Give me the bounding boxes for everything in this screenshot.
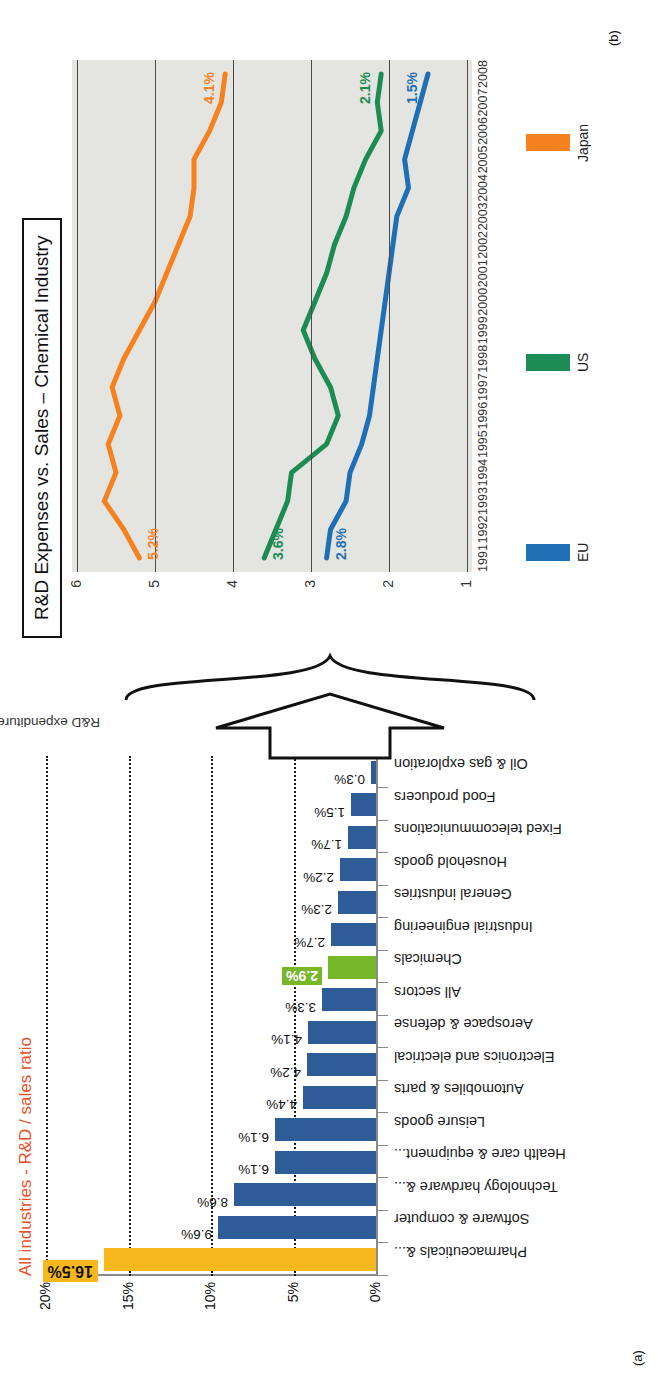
category-label-text: Food producers bbox=[394, 789, 496, 805]
x-tick bbox=[376, 1048, 388, 1049]
legend-label: Japan bbox=[575, 124, 591, 162]
legend-item-us: US bbox=[526, 353, 591, 372]
x-tick bbox=[376, 788, 388, 789]
curly-brace-icon bbox=[120, 652, 540, 706]
gridline bbox=[233, 60, 234, 572]
category-label-text: All sectors bbox=[394, 984, 461, 1000]
gridline bbox=[155, 60, 156, 572]
legend-item-japan: Japan bbox=[526, 124, 591, 162]
category-label: General industries bbox=[392, 886, 662, 919]
gridline bbox=[389, 60, 390, 572]
bar-value-label: 2.7% bbox=[295, 935, 326, 950]
category-label: Fixed telecommunications bbox=[392, 821, 662, 854]
category-label-text: Leisure goods bbox=[394, 1114, 485, 1130]
series-end-label: 2.1% bbox=[357, 72, 373, 104]
line-x-tick-labels: 1991199219931994199519961997199819992000… bbox=[476, 60, 494, 572]
bar-rect bbox=[234, 1183, 376, 1206]
series-end-label: 4.1% bbox=[201, 72, 217, 104]
bar-item: 3.3% bbox=[46, 984, 376, 1017]
category-label-text: Electronics and electrical bbox=[394, 1049, 554, 1065]
series-end-label: 1.5% bbox=[404, 72, 420, 104]
bar-value-label: 1.7% bbox=[311, 837, 342, 852]
bar-value-label: 3.3% bbox=[285, 1000, 316, 1015]
panel-a-tag: (a) bbox=[630, 1350, 645, 1366]
x-tick-label: 2003 bbox=[476, 202, 490, 230]
series-end-label: 3.6% bbox=[270, 528, 286, 560]
y-tick-label: 2 bbox=[380, 580, 396, 598]
legend-label: EU bbox=[575, 543, 591, 562]
bar-category-labels: Pharmaceuticals &...Software & computerT… bbox=[392, 756, 662, 1276]
category-label: Health care & equipment... bbox=[392, 1146, 662, 1179]
bar-x-ticks bbox=[376, 756, 388, 1276]
series-end-label: 2.8% bbox=[333, 528, 349, 560]
gridline bbox=[311, 60, 312, 572]
category-label: Leisure goods bbox=[392, 1114, 662, 1147]
legend-swatch bbox=[526, 354, 570, 371]
category-label-text: Automobiles & parts bbox=[394, 1081, 524, 1097]
x-tick bbox=[376, 820, 388, 821]
bar-rect bbox=[275, 1118, 376, 1141]
bar-rect bbox=[348, 826, 376, 849]
bar-item: 4.2% bbox=[46, 1049, 376, 1082]
bar-item: 2.9% bbox=[46, 951, 376, 984]
bar-rect bbox=[307, 1053, 376, 1076]
bar-rect bbox=[218, 1216, 376, 1239]
rotated-figure-canvas: (a) All industries - R&D / sales ratio 0… bbox=[0, 0, 662, 1384]
x-tick-label: 2004 bbox=[476, 174, 490, 202]
bar-value-label: 2.3% bbox=[301, 902, 332, 917]
x-tick-label: 1998 bbox=[476, 345, 490, 373]
category-label-text: Pharmaceuticals &... bbox=[394, 1244, 527, 1260]
category-label: Automobiles & parts bbox=[392, 1081, 662, 1114]
bar-value-label: 1.5% bbox=[314, 805, 345, 820]
bar-value-label: 6.1% bbox=[239, 1162, 270, 1177]
x-tick-label: 1996 bbox=[476, 402, 490, 430]
bar-item: 9.6% bbox=[46, 1211, 376, 1244]
bar-rect bbox=[331, 923, 376, 946]
x-tick bbox=[376, 950, 388, 951]
bar-plot-area: 0%5%10%15%20% 16.5%9.6%8.6%6.1%6.1%4.4%4… bbox=[46, 756, 376, 1276]
bar-item: 4.4% bbox=[46, 1081, 376, 1114]
line-y-axis-title: R&D expenditure (% of sales) bbox=[0, 715, 100, 730]
y-tick-label: 3 bbox=[302, 580, 318, 598]
bar-series: 16.5%9.6%8.6%6.1%6.1%4.4%4.2%4.1%3.3%2.9… bbox=[46, 756, 376, 1276]
bar-item: 6.1% bbox=[46, 1146, 376, 1179]
x-tick-label: 2001 bbox=[476, 259, 490, 287]
bar-item: 16.5% bbox=[46, 1244, 376, 1277]
category-label-text: Fixed telecommunications bbox=[394, 821, 562, 837]
category-label: Household goods bbox=[392, 854, 662, 887]
category-label: All sectors bbox=[392, 984, 662, 1017]
category-label: Software & computer bbox=[392, 1211, 662, 1244]
bar-value-label: 4.4% bbox=[267, 1097, 298, 1112]
x-tick bbox=[376, 983, 388, 984]
bar-value-label: 2.2% bbox=[303, 870, 334, 885]
category-label: Chemicals bbox=[392, 951, 662, 984]
bar-value-label: 8.6% bbox=[197, 1195, 228, 1210]
bar-item: 2.7% bbox=[46, 919, 376, 952]
category-label: Industrial engineering bbox=[392, 919, 662, 952]
category-label-text: Health care & equipment... bbox=[394, 1146, 566, 1162]
x-tick bbox=[376, 885, 388, 886]
legend-item-eu: EU bbox=[526, 543, 591, 562]
x-tick bbox=[376, 1210, 388, 1211]
category-label-text: Household goods bbox=[394, 854, 507, 870]
legend-label: US bbox=[575, 353, 591, 372]
y-tick-label: 4 bbox=[224, 580, 240, 598]
x-tick-label: 2000 bbox=[476, 288, 490, 316]
category-label-text: Aerospace & defense bbox=[394, 1016, 533, 1032]
y-tick-label: 10% bbox=[202, 1282, 218, 1322]
category-label: Technology hardware &... bbox=[392, 1179, 662, 1212]
gridline bbox=[77, 60, 78, 572]
panel-b-tag: (b) bbox=[606, 30, 621, 46]
bar-rect bbox=[351, 793, 376, 816]
x-tick bbox=[376, 918, 388, 919]
x-tick bbox=[376, 1113, 388, 1114]
y-tick-label: 1 bbox=[458, 580, 474, 598]
bar-value-label: 4.2% bbox=[270, 1065, 301, 1080]
bar-rect bbox=[104, 1248, 376, 1271]
x-tick bbox=[376, 1015, 388, 1016]
figure-page: (a) All industries - R&D / sales ratio 0… bbox=[0, 0, 662, 1384]
line-series-svg bbox=[72, 60, 472, 572]
panel-a-bar-chart: (a) All industries - R&D / sales ratio 0… bbox=[6, 738, 656, 1368]
category-label-text: Software & computer bbox=[394, 1211, 529, 1227]
y-tick-label: 0% bbox=[367, 1282, 383, 1322]
